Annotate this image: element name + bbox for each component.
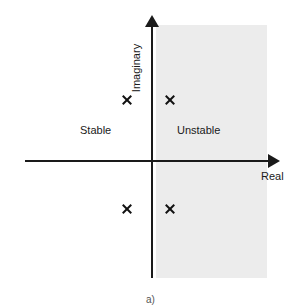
figure-caption: a) [146,294,155,305]
unstable-region-shading [156,25,267,278]
pole-upper-right [164,94,176,106]
pole-upper-left [121,94,133,106]
unstable-region-label: Unstable [177,124,220,136]
arrow-right-icon [268,154,280,168]
imaginary-axis-label: Imaginary [130,44,142,92]
real-axis-label: Real [261,170,284,182]
stable-region-label: Stable [80,124,111,136]
real-axis-line [25,160,273,162]
complex-plane-stability-diagram: Real Imaginary Stable Unstable a) [0,0,305,306]
imaginary-axis-line [151,22,153,278]
pole-lower-left [121,203,133,215]
pole-lower-right [164,203,176,215]
arrow-up-icon [145,15,159,27]
